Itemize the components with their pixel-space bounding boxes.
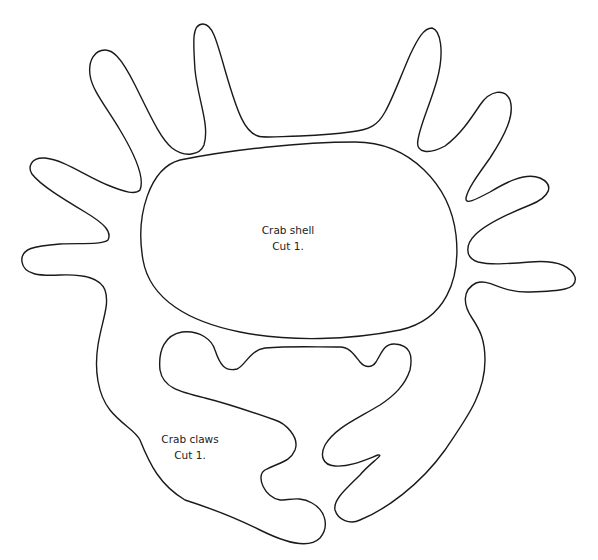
crab-template-drawing <box>0 0 598 560</box>
crab-shell-instruction: Cut 1. <box>238 238 338 254</box>
crab-claws-title: Crab claws <box>142 431 238 447</box>
crab-shell-title: Crab shell <box>238 222 338 238</box>
crab-claws-instruction: Cut 1. <box>142 447 238 463</box>
crab-legs-outline <box>22 24 576 544</box>
crab-claws-label: Crab claws Cut 1. <box>142 431 238 463</box>
crab-shell-label: Crab shell Cut 1. <box>238 222 338 254</box>
crab-template-canvas: Crab shell Cut 1. Crab claws Cut 1. <box>0 0 598 560</box>
